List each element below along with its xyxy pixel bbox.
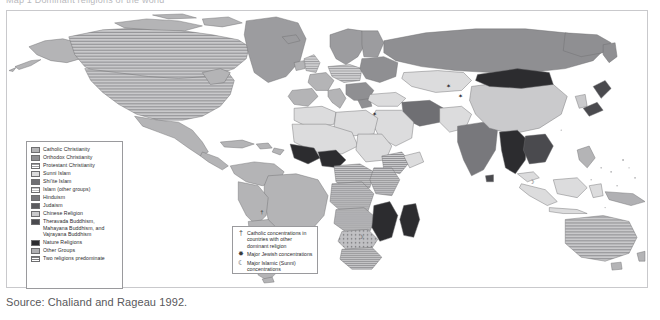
legend-label: Nature Religions: [43, 239, 82, 246]
concentration-legend-label: Major Jewish concentrations: [247, 251, 312, 257]
legend-swatch-shiite-islam: [31, 179, 40, 185]
legend-label: Sunni Islam: [43, 170, 71, 177]
concentration-legend-item: ✸ Major Jewish concentrations: [237, 251, 314, 257]
concentration-legend: † Catholic concentrations in countries w…: [232, 226, 318, 274]
legend-swatch-chinese-religion: [31, 211, 40, 217]
concentration-legend-label: Catholic concentrations in countries wit…: [247, 230, 314, 249]
religion-legend: Catholic Christianity Orthodox Christian…: [26, 141, 123, 289]
source-caption: Source: Chaliand and Rageau 1992.: [6, 296, 187, 308]
legend-swatch-hinduism: [31, 195, 40, 201]
concentration-legend-item: † Catholic concentrations in countries w…: [237, 230, 314, 249]
legend-item: Islam (other groups): [31, 186, 118, 193]
legend-item: Two religions predominate: [31, 255, 118, 262]
concentration-legend-label: Major Islamic (Sunni) concentrations: [247, 260, 314, 273]
crescent-icon: ☾: [237, 260, 245, 266]
svg-text:☽: ☽: [529, 179, 534, 185]
legend-swatch-other-groups: [31, 248, 40, 254]
legend-swatch-orthodox-christianity: [31, 155, 40, 161]
svg-text:☽: ☽: [358, 234, 363, 240]
concentration-legend-item: ☾ Major Islamic (Sunni) concentrations: [237, 260, 314, 273]
legend-swatch-two-religions-predominate: [31, 256, 40, 262]
legend-item: Theravada Buddhism, Mahayana Buddhism, a…: [31, 218, 118, 238]
legend-item: Catholic Christianity: [31, 146, 118, 153]
legend-label: Hinduism: [43, 194, 65, 201]
legend-swatch-protestant-christianity: [31, 163, 40, 169]
legend-label: Shi'ite Islam: [43, 178, 71, 185]
legend-swatch-nature-religions: [31, 240, 40, 246]
svg-text:✶: ✶: [458, 93, 463, 99]
legend-swatch-buddhism: [31, 219, 40, 225]
legend-swatch-sunni-islam: [31, 171, 40, 177]
legend-swatch-judaism: [31, 203, 40, 209]
legend-item: Shi'ite Islam: [31, 178, 118, 185]
legend-item: Nature Religions: [31, 239, 118, 246]
legend-label: Judaism: [43, 202, 63, 209]
cross-icon: †: [237, 230, 245, 236]
legend-item: Chinese Religion: [31, 210, 118, 217]
star-of-david-icon: ✸: [237, 251, 245, 257]
legend-swatch-islam-other-groups: [31, 187, 40, 193]
legend-label: Other Groups: [43, 247, 75, 254]
legend-label: Islam (other groups): [43, 186, 90, 193]
svg-text:†: †: [260, 209, 263, 215]
legend-item: Hinduism: [31, 194, 118, 201]
legend-swatch-catholic-christianity: [31, 147, 40, 153]
cutoff-title-text: Map 1 Dominant religions of the world: [6, 0, 306, 5]
svg-text:✶: ✶: [372, 111, 377, 117]
legend-label: Chinese Religion: [43, 210, 83, 217]
cutoff-title-strip: Map 1 Dominant religions of the world: [6, 0, 306, 9]
legend-item: Judaism: [31, 202, 118, 209]
svg-text:✶: ✶: [446, 83, 451, 89]
legend-label: Two religions predominate: [43, 255, 105, 262]
legend-item: Other Groups: [31, 247, 118, 254]
legend-item: Protestant Christianity: [31, 162, 118, 169]
legend-label: Orthodox Christianity: [43, 154, 93, 161]
legend-label: Catholic Christianity: [43, 146, 90, 153]
legend-item: Sunni Islam: [31, 170, 118, 177]
legend-item: Orthodox Christianity: [31, 154, 118, 161]
legend-label: Theravada Buddhism, Mahayana Buddhism, a…: [43, 218, 118, 238]
legend-label: Protestant Christianity: [43, 162, 95, 169]
